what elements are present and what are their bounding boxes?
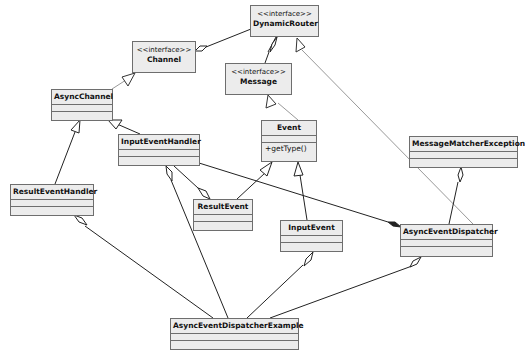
class-name: InputEventHandler: [121, 137, 197, 147]
class-name: Message: [228, 77, 289, 87]
class-name: AsyncChannel: [54, 92, 110, 102]
attributes-section: [52, 105, 112, 112]
class-dynamic-router[interactable]: <<interface>> DynamicRouter: [250, 5, 319, 37]
attributes-section: [194, 215, 252, 222]
class-result-event[interactable]: ResultEvent: [193, 199, 253, 231]
attributes-section: [119, 150, 199, 157]
attributes-section: [410, 152, 517, 159]
class-name: DynamicRouter: [253, 19, 316, 29]
class-name: AsyncEventDispatcherExample: [173, 321, 296, 331]
operations-section: [401, 247, 492, 253]
attributes-section: [281, 236, 342, 243]
class-async-channel[interactable]: AsyncChannel: [51, 89, 113, 121]
attributes-section: [401, 240, 492, 247]
class-async-event-dispatcher[interactable]: AsyncEventDispatcher: [400, 224, 493, 257]
class-name: ResultEvent: [196, 202, 250, 212]
attributes-section: [11, 200, 93, 207]
operations-section: [410, 159, 517, 165]
aggregation-diamond-icon: [195, 46, 207, 51]
class-input-event-handler[interactable]: InputEventHandler: [118, 134, 200, 166]
class-message[interactable]: <<interface>> Message: [225, 63, 292, 95]
stereotype-label: <<interface>>: [228, 67, 289, 77]
stereotype-label: <<interface>>: [135, 45, 193, 55]
class-name: ResultEventHandler: [13, 187, 91, 197]
relationship-lines: [0, 0, 525, 363]
attributes-section: [262, 136, 316, 143]
operations-section: [119, 157, 199, 163]
class-name: Event: [264, 123, 314, 133]
edge-asyncchannel-channel: [112, 80, 126, 89]
class-message-matcher-exception[interactable]: MessageMatcherException: [409, 136, 518, 168]
class-async-event-dispatcher-example[interactable]: AsyncEventDispatcherExample: [170, 318, 299, 350]
aggregation-diamond-icon: [270, 37, 277, 52]
stereotype-label: <<interface>>: [253, 9, 316, 19]
class-name: InputEvent: [283, 223, 340, 233]
class-name: AsyncEventDispatcher: [403, 227, 490, 237]
operation-get-type: +getType(): [262, 143, 316, 155]
class-name: MessageMatcherException: [412, 139, 515, 149]
class-input-event[interactable]: InputEvent: [280, 220, 343, 252]
realization-arrow-icon: [122, 73, 135, 86]
class-name: Channel: [135, 55, 193, 65]
operations-section: [281, 243, 342, 249]
operations-section: [52, 112, 112, 118]
class-result-event-handler[interactable]: ResultEventHandler: [10, 184, 94, 216]
class-event[interactable]: Event +getType(): [261, 120, 317, 162]
operations-section: [194, 222, 252, 228]
class-channel[interactable]: <<interface>> Channel: [132, 41, 196, 73]
attributes-section: [171, 334, 298, 341]
operations-section: [171, 341, 298, 347]
operations-section: [11, 207, 93, 213]
edge-dynamicrouter-channel: [206, 29, 251, 47]
